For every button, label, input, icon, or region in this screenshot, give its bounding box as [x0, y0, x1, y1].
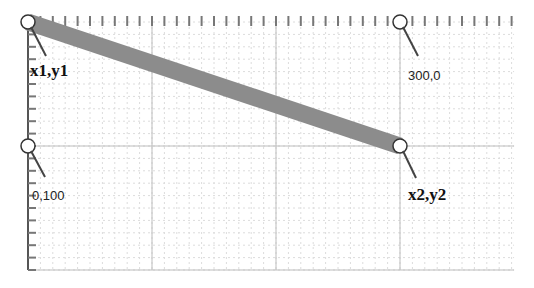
y-marker-label: 0,100: [32, 188, 65, 203]
start-point-label: x1,y1: [30, 61, 68, 80]
end-point-label: x2,y2: [408, 185, 446, 204]
x-marker-handle: [393, 15, 418, 56]
x-marker-label: 300,0: [408, 68, 441, 83]
major-grid: [28, 22, 514, 270]
coordinate-diagram: x1,y1 x2,y2 300,0 0,100: [0, 0, 534, 288]
